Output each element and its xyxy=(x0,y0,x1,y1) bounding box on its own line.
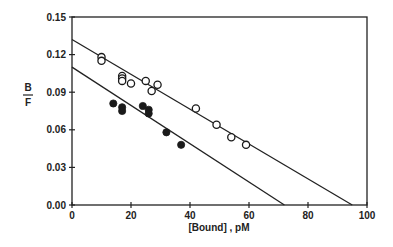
y-tick-label: 0.00 xyxy=(47,200,67,211)
y-axis-label-denominator: F xyxy=(25,97,31,108)
y-tick-label: 0.06 xyxy=(47,124,67,135)
open-circle-point xyxy=(142,77,149,84)
x-tick-label: 40 xyxy=(184,210,196,221)
x-tick-label: 0 xyxy=(69,210,75,221)
x-tick-label: 80 xyxy=(302,210,314,221)
open-circle-point xyxy=(228,134,235,141)
plot-frame xyxy=(72,17,367,205)
open-circle-point xyxy=(242,141,249,148)
y-axis-ticks: 0.000.030.060.090.120.15 xyxy=(47,12,75,211)
scatchard-plot: 020406080100 0.000.030.060.090.120.15 [B… xyxy=(0,0,393,247)
filled-circle-point xyxy=(163,129,170,136)
fit-line xyxy=(72,67,284,205)
y-tick-label: 0.12 xyxy=(47,49,67,60)
open-circle-point xyxy=(127,80,134,87)
x-tick-label: 60 xyxy=(243,210,255,221)
fit-lines xyxy=(72,40,352,205)
filled-circle-point xyxy=(145,110,152,117)
open-circle-point xyxy=(119,77,126,84)
fit-line xyxy=(72,40,352,205)
x-tick-label: 20 xyxy=(125,210,137,221)
x-tick-label: 100 xyxy=(359,210,376,221)
y-tick-label: 0.15 xyxy=(47,12,67,23)
filled-circle-point xyxy=(119,107,126,114)
open-circle-point xyxy=(148,87,155,94)
open-circle-point xyxy=(154,81,161,88)
open-circle-point xyxy=(192,105,199,112)
open-circle-point xyxy=(213,121,220,128)
y-axis-label-numerator: B xyxy=(24,82,31,93)
y-tick-label: 0.03 xyxy=(47,162,67,173)
filled-circle-point xyxy=(178,141,185,148)
x-axis-label: [Bound] , pM xyxy=(188,222,249,233)
open-circle-point xyxy=(98,57,105,64)
y-tick-label: 0.09 xyxy=(47,87,67,98)
filled-circle-point xyxy=(110,100,117,107)
